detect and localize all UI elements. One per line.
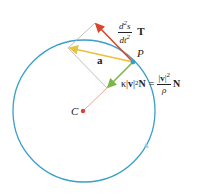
diagram-canvas (0, 0, 199, 195)
unit-tangent-T: T (137, 25, 144, 37)
unit-normal-N-2: N (173, 79, 180, 89)
center-C-label: C (71, 106, 78, 117)
equals-sign: = (149, 79, 155, 89)
point-P (131, 60, 136, 65)
num-s: s (127, 21, 131, 31)
den-dt: dt (120, 35, 127, 45)
point-P-label: P (137, 48, 144, 59)
kappa: κ| (121, 79, 128, 89)
construction-line-top (68, 23, 95, 48)
curvature-acceleration-diagram: d2s dt2 T a P C κ|v|2N = |v|2 ρ N (0, 0, 199, 195)
tangential-fraction: d2s dt2 (118, 20, 132, 45)
normal-fraction: |v|2 ρ (157, 72, 171, 95)
tangential-label: d2s dt2 T (118, 20, 145, 45)
unit-normal-N: N (139, 79, 146, 89)
center-point (81, 109, 85, 113)
rho: ρ (162, 85, 166, 95)
frac-exp: 2 (167, 71, 171, 79)
den-exp: 2 (127, 33, 131, 41)
acceleration-label: a (97, 55, 103, 66)
radius-line (83, 88, 107, 111)
normal-label: κ|v|2N = |v|2 ρ N (121, 72, 180, 95)
